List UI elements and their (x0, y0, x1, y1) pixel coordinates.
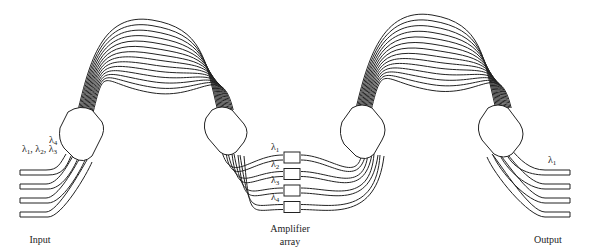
amplifier-label-2: λ2 (271, 158, 280, 171)
left-arc-waveguide-6-edge-1 (90, 71, 230, 112)
star-coupler-1 (60, 107, 104, 160)
waveguide-array-left (78, 19, 234, 112)
amp-out-waveguide-4-edge-1 (301, 155, 380, 205)
left-arc-waveguide-1-edge-2 (79, 25, 219, 112)
output-label-lambda1: λ1 (548, 154, 557, 167)
waveguide-array-right (356, 14, 512, 110)
amplifier-4 (284, 202, 300, 213)
amplifier-1 (284, 152, 300, 163)
amp-out-waveguide-4-edge-2 (301, 156, 384, 210)
star-coupler-4 (478, 105, 523, 157)
star-coupler-3 (340, 105, 385, 159)
input-waveguides (20, 154, 92, 217)
amplifier-waveguides (222, 152, 384, 210)
star-coupler-2 (204, 107, 247, 155)
right-arc-waveguide-2-edge-1 (358, 26, 498, 110)
amplifier-caption-line2: array (280, 236, 301, 247)
output-waveguide-2-edge-1 (504, 150, 570, 184)
wgr-amplifier-diagram: λ4 λ1, λ2, λ3 λ1 λ1λ2λ3λ4 Input Amplifie… (0, 0, 592, 251)
right-arc-waveguide-1-edge-1 (356, 14, 496, 110)
right-arc-waveguide-7-edge-1 (370, 75, 510, 110)
amplifier-caption-line1: Amplifier (270, 223, 310, 234)
left-arc-waveguide-6-edge-2 (91, 74, 231, 112)
amplifier-array (284, 152, 300, 213)
amplifier-2 (284, 169, 300, 180)
input-waveguide-1-edge-1 (20, 154, 66, 170)
amplifier-3 (284, 185, 300, 196)
amp-out-waveguide-1-edge-1 (301, 152, 362, 167)
amplifier-label-4: λ4 (271, 191, 280, 204)
amplifier-label-3: λ3 (271, 174, 280, 187)
input-waveguide-3-edge-1 (20, 158, 80, 198)
input-label-lambda123: λ1, λ2, λ3 (22, 143, 58, 156)
input-waveguide-4-edge-1 (20, 160, 87, 212)
input-caption: Input (29, 234, 50, 245)
output-caption: Output (534, 234, 562, 245)
amplifier-label-1: λ1 (271, 141, 280, 154)
output-waveguides (487, 148, 570, 217)
right-arc-waveguide-6-edge-1 (368, 68, 508, 110)
output-waveguide-1-edge-1 (510, 148, 570, 170)
